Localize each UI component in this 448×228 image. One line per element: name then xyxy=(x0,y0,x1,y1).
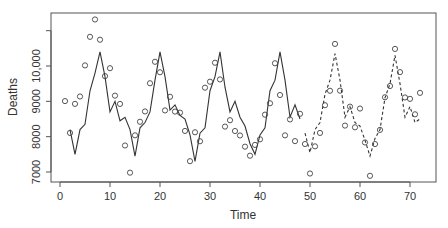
data-point xyxy=(142,109,147,114)
data-point xyxy=(317,130,322,135)
plot-frame xyxy=(51,13,436,182)
data-point xyxy=(407,96,412,101)
data-point xyxy=(202,85,207,90)
data-point xyxy=(222,124,227,129)
data-point xyxy=(152,59,157,64)
data-point xyxy=(227,118,232,123)
data-point xyxy=(247,153,252,158)
data-point xyxy=(252,142,257,147)
data-point xyxy=(127,170,132,175)
x-tick-label: 30 xyxy=(204,190,216,202)
x-tick-label: 70 xyxy=(404,190,416,202)
data-point xyxy=(97,37,102,42)
observed-points xyxy=(62,17,422,179)
data-point xyxy=(242,144,247,149)
x-tick-label: 0 xyxy=(57,190,63,202)
data-point xyxy=(132,133,137,138)
x-tick-label: 60 xyxy=(354,190,366,202)
x-tick-label: 40 xyxy=(254,190,266,202)
data-point xyxy=(122,143,127,148)
data-point xyxy=(172,109,177,114)
x-tick-label: 10 xyxy=(104,190,116,202)
data-point xyxy=(192,130,197,135)
data-point xyxy=(282,133,287,138)
data-point xyxy=(207,79,212,84)
data-point xyxy=(77,94,82,99)
data-point xyxy=(327,88,332,93)
data-point xyxy=(322,103,327,108)
y-tick-label: 7000 xyxy=(30,160,42,184)
y-tick-label: 10,000 xyxy=(30,49,42,83)
data-point xyxy=(137,119,142,124)
data-point xyxy=(342,123,347,128)
x-tick-label: 20 xyxy=(154,190,166,202)
fitted-line xyxy=(70,52,300,162)
data-point xyxy=(272,61,277,66)
data-point xyxy=(157,70,162,75)
data-point xyxy=(357,106,362,111)
data-point xyxy=(182,128,187,133)
y-tick-label: 9000 xyxy=(30,89,42,113)
data-point xyxy=(237,133,242,138)
time-series-chart: 010203040506070 70008000900010,000 Time … xyxy=(0,0,448,228)
data-point xyxy=(232,128,237,133)
data-point xyxy=(257,137,262,142)
data-point xyxy=(352,125,357,130)
x-tick-label: 50 xyxy=(304,190,316,202)
data-point xyxy=(402,95,407,100)
data-point xyxy=(417,90,422,95)
data-point xyxy=(277,92,282,97)
data-point xyxy=(217,77,222,82)
x-axis: 010203040506070 xyxy=(57,182,416,202)
data-point xyxy=(187,159,192,164)
data-point xyxy=(292,139,297,144)
data-point xyxy=(387,83,392,88)
data-point xyxy=(332,41,337,46)
data-point xyxy=(367,173,372,178)
data-point xyxy=(412,112,417,117)
data-point xyxy=(392,46,397,51)
data-point xyxy=(107,66,112,71)
y-tick-label: 8000 xyxy=(30,124,42,148)
data-point xyxy=(307,171,312,176)
data-point xyxy=(87,34,92,39)
data-point xyxy=(92,17,97,22)
data-point xyxy=(112,93,117,98)
data-point xyxy=(312,144,317,149)
data-point xyxy=(62,98,67,103)
x-axis-label: Time xyxy=(230,208,257,222)
data-point xyxy=(82,63,87,68)
data-point xyxy=(72,101,77,106)
data-point xyxy=(117,101,122,106)
data-point xyxy=(212,60,217,65)
data-point xyxy=(147,81,152,86)
y-axis-label: Deaths xyxy=(6,78,20,116)
data-point xyxy=(162,108,167,113)
y-axis: 70008000900010,000 xyxy=(30,31,51,185)
data-point xyxy=(302,141,307,146)
